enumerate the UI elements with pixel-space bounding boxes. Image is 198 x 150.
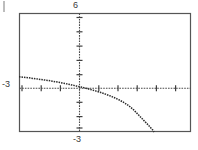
y-axis-min-label: -3 — [2, 80, 10, 89]
y-axis-max-label: 6 — [73, 1, 78, 10]
plot-border — [20, 14, 191, 132]
x-axis-min-label: -3 — [73, 135, 81, 144]
graph-figure: 6 -3 -3 — [0, 0, 198, 150]
scan-artifact-mark — [3, 1, 5, 12]
plot-canvas — [0, 0, 198, 150]
